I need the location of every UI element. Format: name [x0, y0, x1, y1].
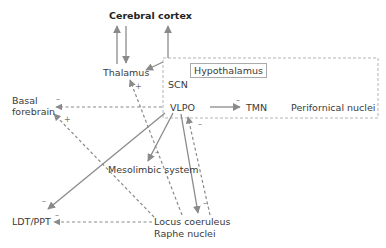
sign-plus-thalamus: + [135, 83, 142, 91]
node-tmn: TMN [246, 102, 267, 113]
sign-plus-basal: + [64, 116, 71, 124]
sign-minus-ldt-dashed: – [55, 212, 59, 220]
arrow-vlpo-to-ldt [48, 113, 165, 209]
sign-minus-mesolimbic: – [155, 149, 159, 157]
node-vlpo: VLPO [170, 102, 195, 113]
node-basal-forebrain-line2: forebrain [12, 106, 55, 117]
node-basal-forebrain-line1: Basal [12, 95, 38, 106]
node-thalamus: Thalamus [103, 67, 149, 78]
sign-minus-tmn: – [236, 97, 240, 105]
node-scn: SCN [168, 79, 188, 90]
node-ldt-ppt: LDT/PPT [12, 216, 51, 227]
sign-minus-basal: – [56, 96, 60, 104]
node-hypothalamus: Hypothalamus [190, 63, 267, 78]
node-cerebral-cortex: Cerebral cortex [109, 10, 192, 21]
sign-minus-ldt-solid: – [42, 198, 46, 206]
node-mesolimbic-system: Mesolimbic system [108, 164, 199, 175]
node-locus-coeruleus: Locus coeruleus [154, 216, 230, 227]
node-perifornical-nuclei: Perifornical nuclei [291, 102, 375, 113]
node-raphe-nuclei: Raphe nuclei [154, 228, 216, 239]
sign-minus-vlpo: – [198, 121, 202, 129]
sign-minus-locus: – [203, 200, 207, 208]
